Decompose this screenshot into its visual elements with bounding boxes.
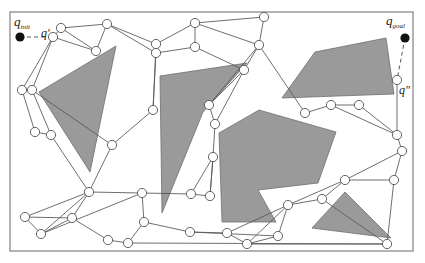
roadmap-edge [22,90,35,132]
roadmap-node [340,175,349,184]
roadmap-edge [41,193,142,234]
roadmap-node [30,127,39,136]
roadmap-edge [53,37,96,51]
roadmap-node [205,191,214,200]
roadmap-node [151,39,160,48]
q-double-prime-label: q″ [399,83,411,97]
roadmap-edge [195,23,259,45]
roadmap-node [20,212,29,221]
roadmap-edge [61,28,96,51]
roadmap-node [259,12,268,21]
roadmap-node [273,231,282,240]
obstacles-layer [39,38,394,238]
roadmap-node [254,40,263,49]
roadmap-node [204,100,213,109]
roadmap-node [48,32,57,41]
roadmap-edge [128,243,387,244]
dashed-connection [397,38,405,80]
roadmap-edge [191,157,213,194]
roadmap-node [300,108,309,117]
roadmap-diagram: qinit q′ qgoal q″ [0,0,425,263]
roadmap-edge [112,110,153,145]
roadmap-node [354,100,363,109]
roadmap-node [283,200,292,209]
roadmap-node [382,239,391,248]
roadmap-node [27,85,36,94]
endpoints-layer [15,32,409,42]
q-goal-point [400,33,409,42]
roadmap-edge [32,37,53,90]
roadmap-edge [210,157,213,196]
roadmap-node [84,187,93,196]
roadmap-edge [107,24,156,44]
roadmap-edge [331,105,397,135]
roadmap-edge [144,222,190,232]
roadmap-node [139,217,148,226]
roadmap-node [17,85,26,94]
roadmap-edge [288,199,322,205]
roadmap-node [190,18,199,27]
roadmap-node [91,46,100,55]
roadmap-node [397,146,406,155]
roadmap-node [137,188,146,197]
roadmap-edge [195,17,264,23]
roadmap-node [242,239,251,248]
roadmap-node [46,130,55,139]
roadmap-edge [25,217,72,218]
roadmap-node [190,42,199,51]
roadmap-node [36,229,45,238]
roadmap-node [151,48,160,57]
q-goal-label: qgoal [386,13,405,30]
roadmap-edge [195,47,244,70]
roadmap-edge [156,47,195,53]
roadmap-node [392,130,401,139]
roadmap-node [185,227,194,236]
q-prime-label: q′ [41,26,50,40]
q-init-point [15,32,24,41]
roadmap-node [102,19,111,28]
roadmap-node [222,228,231,237]
roadmap-edge [25,192,89,217]
roadmap-edge [190,232,278,236]
q-init-label: qinit [14,14,31,31]
roadmap-edge [142,193,191,194]
roadmap-node [317,194,326,203]
obstacle-triangle-left [39,46,116,172]
roadmap-edge [72,218,108,240]
obstacle-quad-top-right [282,38,394,98]
roadmap-node [148,105,157,114]
roadmap-node [326,100,335,109]
roadmap-node [186,189,195,198]
roadmap-node [389,175,398,184]
roadmap-edge [89,192,142,193]
roadmap-edge [387,180,394,244]
roadmap-node [123,238,132,247]
roadmap-edge [22,37,53,90]
roadmap-node [56,23,65,32]
roadmap-edge [41,192,89,234]
roadmap-node [239,65,248,74]
roadmap-node [208,152,217,161]
roadmap-node [107,140,116,149]
roadmap-node [67,213,76,222]
roadmap-edge [156,23,195,44]
roadmap-node [103,235,112,244]
roadmap-edge [61,24,107,28]
roadmap-node [210,119,219,128]
obstacle-polygon-center [219,110,336,222]
